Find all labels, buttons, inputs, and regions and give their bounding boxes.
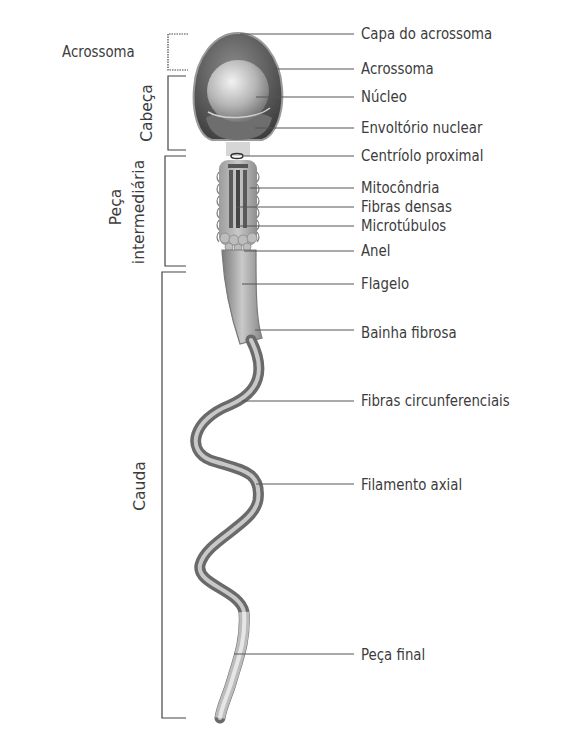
label-bainha-fibrosa: Bainha fibrosa [361, 324, 457, 342]
label-nucleo: Núcleo [361, 88, 407, 106]
diagram-artwork [0, 0, 565, 734]
label-fibras-densas: Fibras densas [361, 198, 452, 216]
group-label-acrossoma: Acrossoma [62, 43, 135, 61]
label-capa-do-acrossoma: Capa do acrossoma [361, 25, 492, 43]
group-label-intermediaria: intermediária [130, 157, 148, 267]
tail [196, 340, 259, 718]
group-label-peca: Peça [107, 157, 125, 257]
label-microtubulos: Microtúbulos [361, 217, 446, 235]
label-anel: Anel [361, 242, 390, 260]
label-flagelo: Flagelo [361, 275, 409, 293]
label-acrossoma: Acrossoma [361, 60, 434, 78]
group-label-cauda: Cauda [131, 446, 149, 526]
label-centriolo-proximal: Centríolo proximal [361, 147, 483, 165]
label-mitocondria: Mitocôndria [361, 179, 439, 197]
label-fibras-circunferenciais: Fibras circunferenciais [361, 392, 510, 410]
group-label-cabeca: Cabeça [138, 78, 156, 148]
midpiece [217, 160, 259, 252]
left-brackets [162, 34, 188, 718]
label-envoltorio-nuclear: Envoltório nuclear [361, 119, 482, 137]
head [194, 33, 283, 140]
label-peca-final: Peça final [361, 646, 425, 664]
sperm-cell-diagram: Capa do acrossoma Acrossoma Núcleo Envol… [0, 0, 565, 734]
label-filamento-axial: Filamento axial [361, 476, 462, 494]
